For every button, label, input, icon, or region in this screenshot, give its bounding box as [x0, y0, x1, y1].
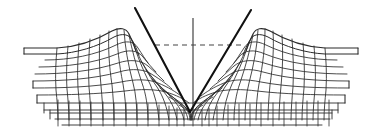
figure-root: Deformed finite element mesh around a pe…	[0, 0, 372, 139]
deformed-mesh-diagram	[0, 0, 372, 139]
